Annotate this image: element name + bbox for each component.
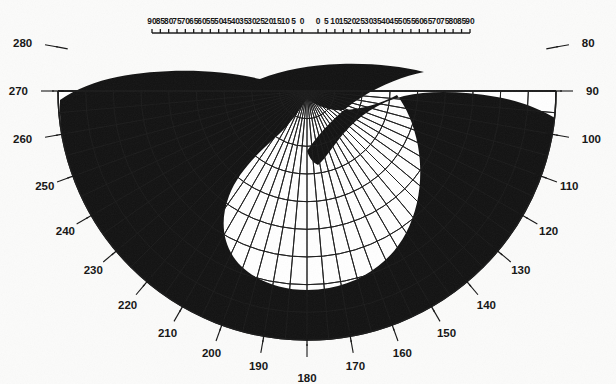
perimetry-chart: 2802702602502402302202102001901801701601… <box>0 0 616 384</box>
paper-grain <box>0 0 616 384</box>
perimetry-chart-svg: 2802702602502402302202102001901801701601… <box>0 0 616 384</box>
